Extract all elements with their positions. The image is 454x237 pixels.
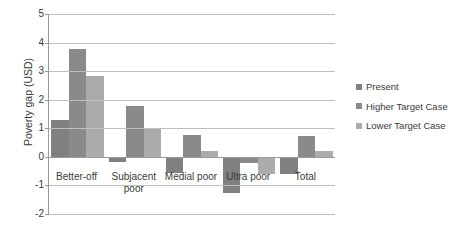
chart-legend: PresentHigher Target CaseLower Target Ca… [356, 82, 454, 141]
x-axis-label-line: Ultra poor [220, 171, 277, 183]
y-tickmark--2 [45, 214, 49, 215]
bar[interactable] [86, 76, 104, 157]
legend-swatch-icon [356, 84, 362, 90]
bar[interactable] [144, 128, 162, 157]
gridline-0 [49, 157, 335, 158]
x-axis-label-line: Medial poor [162, 171, 219, 183]
x-axis-label-line: poor [105, 183, 162, 195]
y-tick-label: 4 [26, 38, 44, 48]
gridline--2 [49, 214, 335, 215]
x-axis-label: Medial poor [162, 171, 219, 183]
legend-item-label: Higher Target Case [366, 102, 448, 112]
gridline-3 [49, 71, 335, 72]
y-tick-label: -2 [26, 209, 44, 219]
y-tick-label: 2 [26, 95, 44, 105]
legend-item-label: Lower Target Case [366, 121, 446, 131]
legend-item[interactable]: Present [356, 82, 454, 92]
legend-swatch-icon [356, 103, 362, 109]
bar[interactable] [51, 120, 69, 157]
y-tick-label: 3 [26, 66, 44, 76]
x-axis-label: Subjacentpoor [105, 171, 162, 194]
y-tickmark-2 [45, 100, 49, 101]
y-tick-label: 1 [26, 123, 44, 133]
legend-swatch-icon [356, 123, 362, 129]
bar[interactable] [298, 136, 316, 157]
bar[interactable] [126, 106, 144, 157]
y-tickmark-3 [45, 71, 49, 72]
x-axis-label-line: Subjacent [105, 171, 162, 183]
x-axis-label-line: Total [277, 171, 334, 183]
y-tick-label: -1 [26, 180, 44, 190]
x-axis-category-labels: Better-offSubjacentpoorMedial poorUltra … [48, 171, 334, 211]
bar[interactable] [183, 135, 201, 156]
gridline-1 [49, 128, 335, 129]
poverty-gap-bar-chart: Poverty gap (USD) 543210-1-2 Better-offS… [0, 0, 454, 237]
y-tickmark-1 [45, 128, 49, 129]
legend-item[interactable]: Higher Target Case [356, 102, 454, 112]
legend-item[interactable]: Lower Target Case [356, 121, 454, 131]
y-tick-label: 5 [26, 9, 44, 19]
y-tick-label: 0 [26, 152, 44, 162]
gridline-2 [49, 100, 335, 101]
x-axis-label: Total [277, 171, 334, 183]
legend-item-label: Present [366, 82, 399, 92]
bar[interactable] [69, 49, 87, 157]
y-tickmark-0 [45, 157, 49, 158]
y-tickmark-5 [45, 14, 49, 15]
gridline-4 [49, 43, 335, 44]
y-tickmark-4 [45, 43, 49, 44]
x-axis-label: Ultra poor [220, 171, 277, 183]
gridline-5 [49, 14, 335, 15]
x-axis-label-line: Better-off [48, 171, 105, 183]
x-axis-label: Better-off [48, 171, 105, 183]
y-axis-tick-labels: 543210-1-2 [26, 14, 44, 214]
